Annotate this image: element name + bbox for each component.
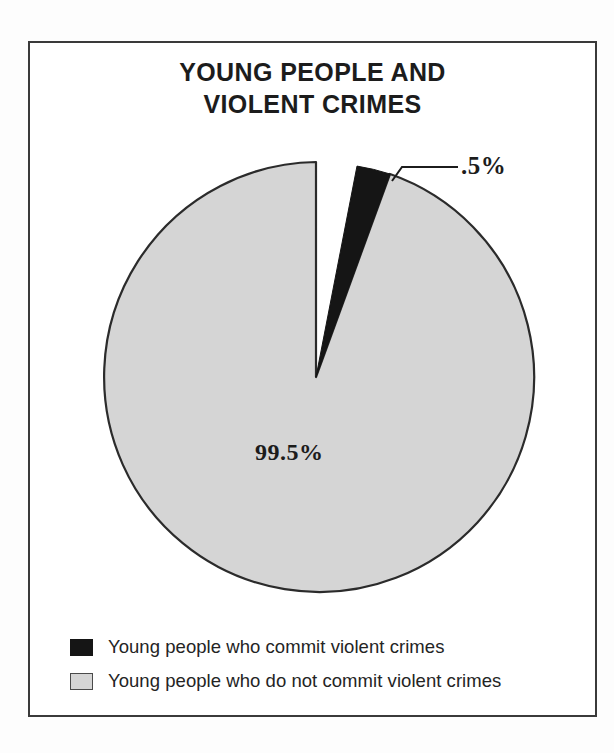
pie-value-label-large: 99.5% xyxy=(255,439,324,466)
pie-chart-svg xyxy=(28,41,597,717)
legend-item-commit[interactable]: Young people who commit violent crimes xyxy=(70,630,580,664)
chart-legend: Young people who commit violent crimes Y… xyxy=(70,630,580,698)
legend-label-commit: Young people who commit violent crimes xyxy=(108,636,444,658)
grey-swatch-icon xyxy=(70,673,93,690)
pie-value-label-small: .5% xyxy=(461,152,506,180)
legend-item-do-not-commit[interactable]: Young people who do not commit violent c… xyxy=(70,664,580,698)
pie-chart-area xyxy=(28,41,597,717)
chart-page: YOUNG PEOPLE AND VIOLENT CRIMES .5% 99.5… xyxy=(0,0,614,753)
pie-slice-grey[interactable] xyxy=(104,162,534,592)
legend-label-do-not-commit: Young people who do not commit violent c… xyxy=(108,670,501,692)
black-swatch-icon xyxy=(70,639,93,656)
